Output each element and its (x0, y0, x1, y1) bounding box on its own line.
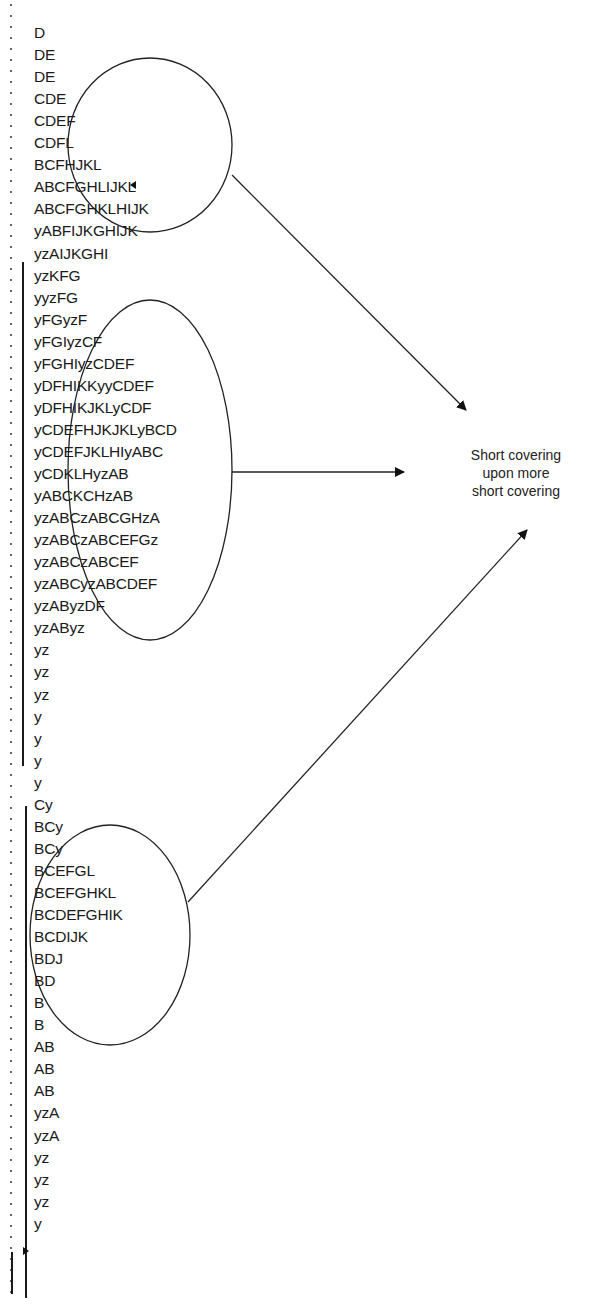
right-pointer-icon (23, 1247, 29, 1255)
middle-ellipse (68, 300, 232, 640)
annotation-overlay (0, 0, 596, 1308)
lower-ellipse (30, 825, 190, 1045)
annotation-line-3: short covering (446, 482, 586, 500)
annotation-text: Short covering upon more short covering (446, 446, 586, 500)
upper-ellipse (68, 58, 232, 232)
annotation-line-1: Short covering (446, 446, 586, 464)
left-pointer-icon (130, 181, 136, 189)
arrow-upper (232, 175, 466, 410)
arrow-lower (188, 530, 527, 902)
annotation-line-2: upon more (446, 464, 586, 482)
